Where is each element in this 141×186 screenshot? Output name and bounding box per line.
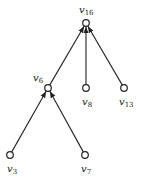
node-v8 — [83, 85, 90, 92]
label-v13: v13 — [119, 96, 134, 109]
node-labels: v16v6v8v13v3v7 — [7, 4, 134, 176]
node-v3 — [7, 152, 14, 159]
edges — [12, 26, 123, 152]
edge-v13-to-v16 — [88, 26, 122, 85]
label-v3: v3 — [7, 163, 17, 176]
tree-diagram: v16v6v8v13v3v7 — [0, 0, 141, 186]
node-v13 — [121, 85, 128, 92]
label-v8: v8 — [82, 96, 92, 109]
edge-v6-to-v16 — [50, 26, 84, 85]
node-v6 — [45, 85, 52, 92]
edge-v7-to-v6 — [50, 91, 84, 152]
label-v6: v6 — [33, 72, 44, 85]
node-v7 — [82, 152, 89, 159]
edge-v3-to-v6 — [12, 91, 46, 152]
node-v16 — [83, 20, 90, 27]
nodes — [7, 20, 128, 159]
label-v16: v16 — [79, 4, 94, 17]
label-v7: v7 — [81, 163, 91, 176]
